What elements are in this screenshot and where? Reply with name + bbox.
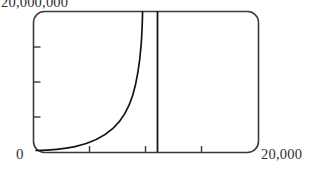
- x-axis-ticks: [90, 146, 202, 152]
- plot-area: [0, 0, 310, 170]
- y-axis-max-label: 20,000,000: [1, 0, 68, 11]
- y-axis-ticks: [34, 47, 41, 117]
- y-axis-min-label: 0: [16, 146, 24, 163]
- growth-curve: [36, 12, 143, 151]
- figure-container: 20,000,000 0 20,000: [0, 0, 310, 170]
- plot-frame: [34, 12, 259, 153]
- x-axis-max-label: 20,000: [261, 146, 302, 163]
